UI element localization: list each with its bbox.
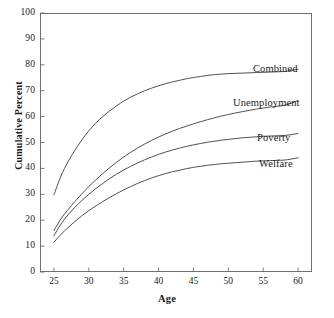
series-label-welfare: Welfare bbox=[259, 158, 293, 169]
y-tick-label: 10 bbox=[9, 241, 35, 251]
y-tick-label: 0 bbox=[9, 267, 35, 277]
x-axis-title: Age bbox=[0, 293, 334, 304]
x-tick-label: 50 bbox=[213, 277, 243, 287]
x-tick-label: 55 bbox=[248, 277, 278, 287]
x-tick-label: 40 bbox=[144, 277, 174, 287]
y-axis-title: Cumulative Percent bbox=[13, 51, 24, 201]
series-lines bbox=[54, 69, 298, 242]
y-tick-label: 100 bbox=[9, 8, 35, 18]
x-axis-tick-labels: 2530354045505560 bbox=[0, 277, 334, 291]
series-line-welfare bbox=[54, 158, 298, 242]
chart-figure: 0102030405060708090100 Cumulative Percen… bbox=[0, 0, 334, 318]
x-tick-label: 35 bbox=[109, 277, 139, 287]
cropped-caption bbox=[6, 310, 328, 318]
y-tick-label: 20 bbox=[9, 215, 35, 225]
series-label-combined: Combined bbox=[253, 63, 298, 74]
y-tick-label: 90 bbox=[9, 34, 35, 44]
series-label-poverty: Poverty bbox=[257, 132, 290, 143]
x-tick-label: 45 bbox=[178, 277, 208, 287]
x-tick-label: 25 bbox=[39, 277, 69, 287]
series-label-unemployment: Unemployment bbox=[233, 97, 300, 108]
x-tick-label: 30 bbox=[74, 277, 104, 287]
x-tick-label: 60 bbox=[283, 277, 313, 287]
